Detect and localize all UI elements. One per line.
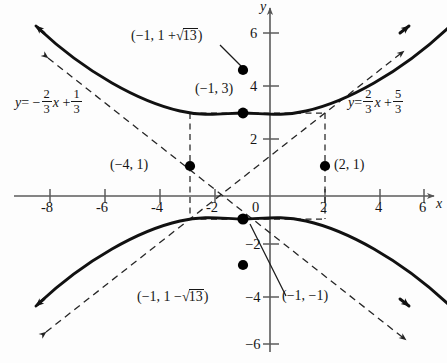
right-eq-frac2-num: 5 xyxy=(393,88,403,102)
focus-lower-suffix: ) xyxy=(204,289,209,304)
left-eq-frac1-num: 2 xyxy=(42,88,52,102)
leader-vertex-lower xyxy=(250,224,286,296)
left-eq-plus: + xyxy=(62,95,70,110)
x-axis-label: x xyxy=(436,197,442,211)
sqrt-icon: √13 xyxy=(176,28,198,43)
y-tick-label--2: −2 xyxy=(245,237,260,252)
y-tick-label--4: −4 xyxy=(245,290,260,305)
x-tick-label-2: 2 xyxy=(320,200,327,215)
left-eq-fraction-1: 2 3 xyxy=(42,88,52,116)
point-rect-right xyxy=(320,161,330,171)
focus-upper-radicand: 13 xyxy=(183,28,198,43)
leader-focus-upper xyxy=(220,45,241,66)
point-focus-upper xyxy=(238,65,248,75)
left-eq-operator: = − xyxy=(21,95,40,110)
x-tick-label-4: 4 xyxy=(375,200,382,215)
x-tick-label--6: -6 xyxy=(96,200,108,215)
y-axis-ticks xyxy=(263,33,279,344)
point-label-rect-left: (−4, 1) xyxy=(110,158,148,172)
point-label-focus-lower: (−1, 1 −√13) xyxy=(137,289,208,304)
equation-right-asymptote: y= 2 3 x + 5 3 xyxy=(348,88,404,116)
point-label-focus-upper: (−1, 1 +√13) xyxy=(131,28,202,43)
right-eq-fraction-2: 5 3 xyxy=(393,88,403,116)
focus-upper-prefix: (−1, 1 + xyxy=(131,28,176,43)
lower-branch-left-arrow xyxy=(36,299,44,306)
y-tick-label-6: 6 xyxy=(250,26,257,41)
right-eq-plus: + xyxy=(384,95,392,110)
left-eq-fraction-2: 1 3 xyxy=(71,88,81,116)
graph-canvas xyxy=(0,0,447,363)
focus-lower-radicand: 13 xyxy=(189,289,204,304)
point-rect-left xyxy=(185,161,195,171)
right-eq-frac2-den: 3 xyxy=(393,102,403,116)
upper-branch-left-arrow xyxy=(36,26,44,33)
point-focus-lower xyxy=(238,260,248,270)
upper-branch-right-arrow xyxy=(400,26,409,33)
point-vertex-lower xyxy=(237,213,248,224)
point-label-vertex-upper: (−1, 3) xyxy=(195,82,233,96)
right-eq-variable: x xyxy=(374,95,380,110)
origin-label: 0 xyxy=(252,200,259,215)
y-axis-label: y xyxy=(260,0,266,14)
right-eq-operator: = xyxy=(354,95,362,110)
sqrt-icon: √13 xyxy=(182,289,204,304)
equation-left-asymptote: y= − 2 3 x + 1 3 xyxy=(15,88,83,116)
point-label-vertex-lower: (−1, −1) xyxy=(282,289,328,303)
right-eq-fraction-1: 2 3 xyxy=(363,88,373,116)
x-tick-label--2: -2 xyxy=(206,200,218,215)
y-tick-label--6: −6 xyxy=(245,337,260,352)
x-tick-label-6: 6 xyxy=(419,200,426,215)
focus-upper-suffix: ) xyxy=(198,28,203,43)
x-tick-label--8: -8 xyxy=(41,200,53,215)
right-eq-frac1-den: 3 xyxy=(363,102,373,116)
point-vertex-upper xyxy=(238,108,249,119)
y-tick-label-2: 2 xyxy=(250,132,257,147)
left-eq-variable: x xyxy=(53,95,59,110)
left-eq-frac1-den: 3 xyxy=(42,102,52,116)
y-tick-label-4: 4 xyxy=(250,79,257,94)
left-eq-frac2-den: 3 xyxy=(71,102,81,116)
hyperbola-graph-figure: -8 -6 -4 -2 2 4 6 0 6 4 2 −2 −4 −6 x y (… xyxy=(0,0,447,363)
right-eq-frac1-num: 2 xyxy=(363,88,373,102)
left-eq-frac2-num: 1 xyxy=(71,88,81,102)
asymptote-negative-slope-hidden xyxy=(46,226,404,363)
focus-lower-prefix: (−1, 1 − xyxy=(137,289,182,304)
point-label-rect-right: (2, 1) xyxy=(334,158,364,172)
x-tick-label--4: -4 xyxy=(151,200,163,215)
lower-branch-right-arrow xyxy=(400,299,409,306)
